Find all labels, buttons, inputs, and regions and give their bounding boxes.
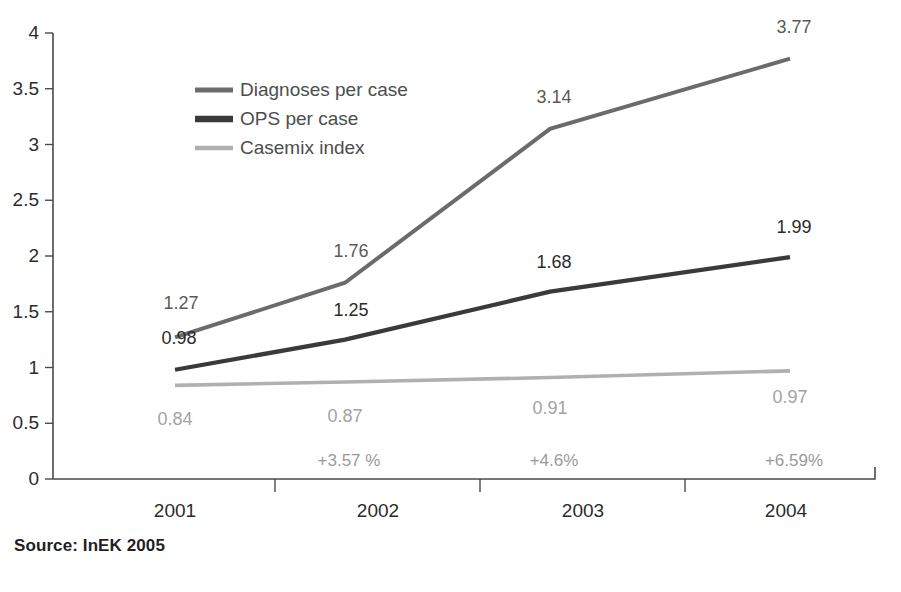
x-axis-tick-label: 2002 — [357, 500, 399, 521]
chart-figure: 00.511.522.533.54 2001200220032004 1.271… — [0, 0, 901, 592]
x-axis-tick-label: 2004 — [765, 500, 808, 521]
y-axis-tick-label: 3.5 — [13, 78, 39, 99]
y-axis-tick-label: 0 — [28, 468, 39, 489]
y-axis-tick-label: 1 — [28, 357, 39, 378]
x-axis-tick-label: 2001 — [154, 500, 196, 521]
data-point-label: 0.87 — [327, 406, 362, 426]
y-axis-tick-label: 2 — [28, 245, 39, 266]
series-line — [175, 59, 790, 338]
x-axis-tick-label: 2003 — [562, 500, 604, 521]
data-point-label: 3.77 — [776, 17, 811, 37]
data-point-label: 1.27 — [163, 293, 198, 313]
growth-rate-label: +3.57 % — [318, 451, 381, 470]
data-point-label: 3.14 — [536, 87, 571, 107]
data-point-label: 1.68 — [536, 252, 571, 272]
series-line — [175, 257, 790, 370]
y-axis-tick-label: 0.5 — [13, 412, 39, 433]
y-axis-tick-label: 3 — [28, 134, 39, 155]
legend-item-label: OPS per case — [240, 108, 358, 129]
data-point-label: 0.98 — [161, 328, 196, 348]
data-point-label: 1.76 — [333, 241, 368, 261]
y-axis-tick-label: 1.5 — [13, 301, 39, 322]
growth-rate-label: +6.59% — [765, 451, 823, 470]
legend-item-label: Casemix index — [240, 137, 365, 158]
legend-item-label: Diagnoses per case — [240, 79, 408, 100]
y-axis-tick-label: 4 — [28, 22, 39, 43]
y-axis-tick-label: 2.5 — [13, 189, 39, 210]
y-axis: 00.511.522.533.54 — [13, 22, 53, 489]
source-note: Source: InEK 2005 — [14, 536, 165, 556]
data-point-label: 0.91 — [532, 398, 567, 418]
chart-legend: Diagnoses per caseOPS per caseCasemix in… — [195, 79, 408, 158]
growth-rate-label: +4.6% — [530, 451, 579, 470]
data-point-label: 0.84 — [157, 409, 192, 429]
data-point-label: 0.97 — [772, 387, 807, 407]
line-chart: 00.511.522.533.54 2001200220032004 1.271… — [0, 0, 901, 592]
data-point-label: 1.99 — [776, 217, 811, 237]
growth-rate-labels: +3.57 %+4.6%+6.59% — [318, 451, 824, 470]
x-axis: 2001200220032004 — [53, 467, 875, 521]
data-point-label: 1.25 — [333, 300, 368, 320]
series-line — [175, 371, 790, 385]
